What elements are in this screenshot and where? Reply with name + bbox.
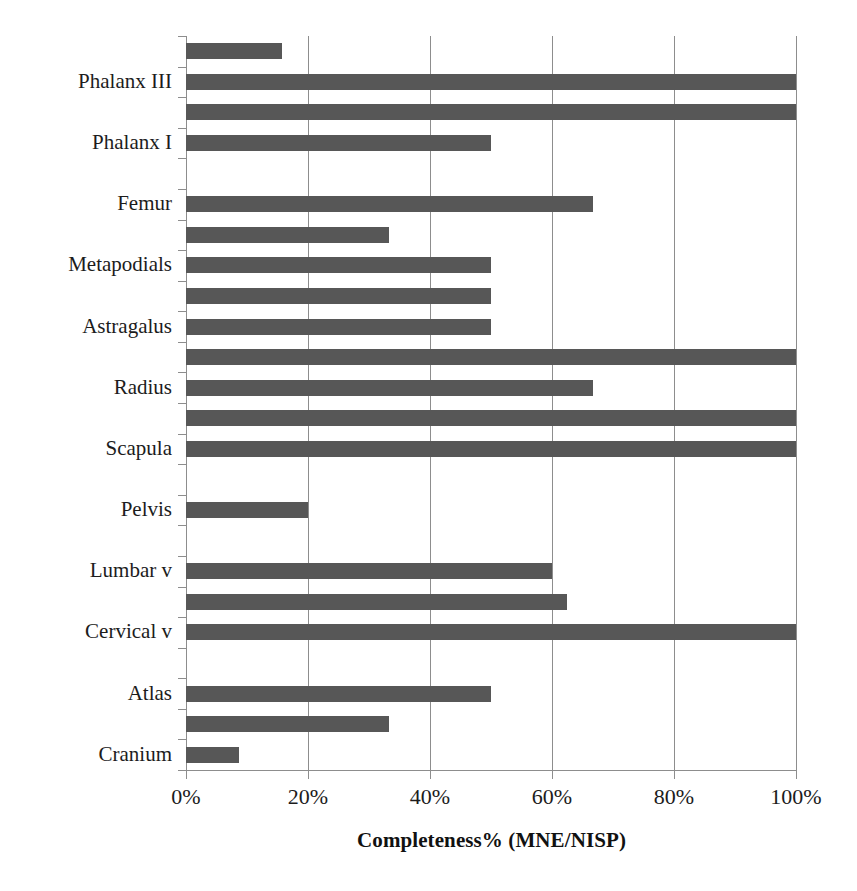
- y-axis-tick: [178, 189, 186, 190]
- bar[interactable]: [186, 74, 796, 90]
- bar[interactable]: [186, 563, 552, 579]
- x-axis-tick-20: [308, 770, 309, 779]
- y-axis-ticks: [178, 36, 186, 770]
- y-axis-tick: [178, 311, 186, 312]
- bar-row: [186, 403, 796, 434]
- x-axis-tick-40: [430, 770, 431, 779]
- bar-row: [186, 158, 796, 189]
- y-axis-tick: [178, 678, 186, 679]
- bar-chart: Phalanx IIIPhalanx IFemurMetapodialsAstr…: [0, 0, 857, 891]
- bar-row: [186, 709, 796, 740]
- y-axis-label-femur: Femur: [117, 193, 172, 214]
- bar-row: [186, 495, 796, 526]
- bar[interactable]: [186, 441, 796, 457]
- bar-row: [186, 311, 796, 342]
- bar[interactable]: [186, 686, 491, 702]
- bar[interactable]: [186, 747, 239, 763]
- x-axis-tick-60: [552, 770, 553, 779]
- y-axis-tick: [178, 556, 186, 557]
- bar[interactable]: [186, 380, 593, 396]
- y-axis-tick: [178, 220, 186, 221]
- y-axis-label-atlas: Atlas: [128, 683, 172, 704]
- y-axis-label-phalanx-iii: Phalanx III: [78, 71, 172, 92]
- y-axis-tick: [178, 281, 186, 282]
- bar[interactable]: [186, 716, 389, 732]
- y-axis-label-astragalus: Astragalus: [82, 316, 172, 337]
- y-axis-tick: [178, 250, 186, 251]
- bar-row: [186, 250, 796, 281]
- y-axis-tick: [178, 36, 186, 37]
- bar-row: [186, 434, 796, 465]
- bar-row: [186, 189, 796, 220]
- bar-row: [186, 372, 796, 403]
- y-axis-tick: [178, 403, 186, 404]
- bar[interactable]: [186, 257, 491, 273]
- y-axis-label-cranium: Cranium: [99, 744, 173, 765]
- bar-row: [186, 556, 796, 587]
- bar-row: [186, 617, 796, 648]
- y-axis-tick: [178, 67, 186, 68]
- plot-area: [186, 36, 796, 770]
- x-axis-ticks: [186, 770, 797, 779]
- x-axis-tick-100: [796, 770, 797, 779]
- bar[interactable]: [186, 135, 491, 151]
- bar[interactable]: [186, 104, 796, 120]
- bar-row: [186, 739, 796, 770]
- bar-row: [186, 128, 796, 159]
- bar[interactable]: [186, 594, 567, 610]
- y-axis-label-metapodials: Metapodials: [68, 254, 172, 275]
- bar[interactable]: [186, 288, 491, 304]
- y-axis-tick: [178, 709, 186, 710]
- gridline-100: [796, 36, 797, 770]
- bar[interactable]: [186, 43, 282, 59]
- bar[interactable]: [186, 227, 389, 243]
- bar-row: [186, 464, 796, 495]
- bar-row: [186, 97, 796, 128]
- x-axis-tick-80: [674, 770, 675, 779]
- bars-layer: [186, 36, 796, 770]
- y-axis-tick: [178, 434, 186, 435]
- y-axis-tick: [178, 464, 186, 465]
- x-axis-tick-label-20: 20%: [288, 786, 328, 808]
- y-axis-tick: [178, 495, 186, 496]
- x-axis-tick-label-0: 0%: [171, 786, 200, 808]
- bar-row: [186, 648, 796, 679]
- x-axis-tick-label-60: 60%: [532, 786, 572, 808]
- bar-row: [186, 342, 796, 373]
- y-axis-labels: Phalanx IIIPhalanx IFemurMetapodialsAstr…: [0, 36, 172, 770]
- bar-row: [186, 281, 796, 312]
- y-axis-tick: [178, 587, 186, 588]
- bar-row: [186, 36, 796, 67]
- y-axis-tick: [178, 770, 186, 771]
- x-axis-tick-label-40: 40%: [410, 786, 450, 808]
- x-axis-tick-label-80: 80%: [654, 786, 694, 808]
- bar[interactable]: [186, 349, 796, 365]
- y-axis-tick: [178, 525, 186, 526]
- bar[interactable]: [186, 624, 796, 640]
- bar-row: [186, 678, 796, 709]
- y-axis-tick: [178, 97, 186, 98]
- bar[interactable]: [186, 502, 308, 518]
- bar-row: [186, 525, 796, 556]
- y-axis-tick: [178, 128, 186, 129]
- x-axis-tick-0: [186, 770, 187, 779]
- bar-row: [186, 67, 796, 98]
- y-axis-tick: [178, 648, 186, 649]
- y-axis-label-lumbar-v: Lumbar v: [90, 560, 172, 581]
- y-axis-tick: [178, 342, 186, 343]
- y-axis-label-phalanx-i: Phalanx I: [92, 132, 172, 153]
- bar-row: [186, 587, 796, 618]
- y-axis-label-cervical-v: Cervical v: [85, 621, 172, 642]
- x-axis-tick-label-100: 100%: [770, 786, 821, 808]
- bar[interactable]: [186, 410, 796, 426]
- y-axis-tick: [178, 158, 186, 159]
- x-axis-tick-labels: 0%20%40%60%80%100%: [0, 786, 857, 818]
- y-axis-label-pelvis: Pelvis: [121, 499, 172, 520]
- y-axis-tick: [178, 372, 186, 373]
- bar[interactable]: [186, 196, 593, 212]
- y-axis-label-radius: Radius: [114, 377, 172, 398]
- y-axis-tick: [178, 739, 186, 740]
- bar[interactable]: [186, 319, 491, 335]
- y-axis-tick: [178, 617, 186, 618]
- y-axis-label-scapula: Scapula: [106, 438, 172, 459]
